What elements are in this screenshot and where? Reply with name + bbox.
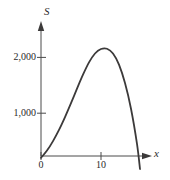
x-axis-arrowhead <box>142 153 152 159</box>
x-axis-title: x <box>154 148 159 159</box>
chart-plot-area <box>0 0 170 180</box>
x-tick-label-10: 10 <box>91 160 111 170</box>
data-curve-series-S <box>41 48 140 169</box>
y-tick-label-1000: 1,000 <box>4 108 36 118</box>
x-tick-label-0: 0 <box>31 160 51 170</box>
y-axis-arrowhead <box>38 21 44 31</box>
chart-figure: S x 2,000 1,000 0 10 <box>0 0 170 180</box>
y-axis-title: S <box>44 6 50 17</box>
y-tick-label-2000: 2,000 <box>4 52 36 62</box>
